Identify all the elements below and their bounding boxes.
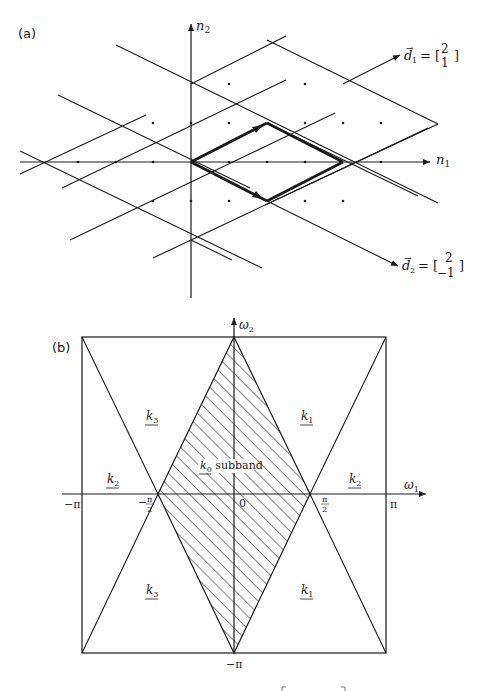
omega1-axis-label: ω1 bbox=[404, 478, 419, 494]
omega2-axis-label: ω2 bbox=[239, 318, 254, 334]
svg-text:π: π bbox=[322, 495, 327, 504]
region-label-k0-subband: k0 subband bbox=[198, 459, 263, 474]
region-label-k2-right: k2 bbox=[348, 472, 361, 488]
svg-text:k1: k1 bbox=[301, 409, 313, 425]
d1-label: d → 1 = [ 2 1 ] bbox=[404, 42, 459, 70]
svg-text:k3: k3 bbox=[146, 409, 158, 425]
bottom-bracket-fragment bbox=[282, 687, 345, 691]
region-label-k1-bottom: k1 bbox=[300, 583, 313, 599]
lattice-lines-positive bbox=[20, 36, 438, 258]
region-label-k3-bottom: k3 bbox=[145, 583, 158, 599]
svg-text:k1: k1 bbox=[301, 583, 313, 599]
svg-text:2: 2 bbox=[322, 505, 327, 514]
d2-label: d → 2 = [ 2 −1 ] bbox=[402, 251, 464, 280]
lattice-lines-negative bbox=[20, 36, 438, 268]
svg-text:2: 2 bbox=[410, 266, 415, 275]
svg-text:]: ] bbox=[454, 48, 459, 63]
svg-text:k3: k3 bbox=[146, 583, 158, 599]
svg-text:−1: −1 bbox=[437, 266, 455, 280]
svg-text:2: 2 bbox=[147, 505, 152, 514]
svg-text:−: − bbox=[138, 496, 147, 509]
tick-pi: π bbox=[390, 498, 397, 511]
svg-text:1: 1 bbox=[441, 56, 449, 70]
svg-text:→: → bbox=[404, 253, 412, 263]
panel-b: (b) ω2 ω1 −π π − π 2 π 2 bbox=[52, 318, 426, 691]
tick-zero: 0 bbox=[239, 497, 246, 510]
panel-a-label: (a) bbox=[18, 26, 36, 41]
tick-neg-half-pi: − π 2 bbox=[138, 495, 154, 514]
svg-text:2: 2 bbox=[441, 42, 449, 56]
svg-text:→: → bbox=[406, 43, 414, 53]
svg-text:= [: = [ bbox=[418, 258, 438, 273]
svg-text:k2: k2 bbox=[349, 472, 361, 488]
panel-a: (a) bbox=[18, 18, 464, 298]
region-label-k3-top: k3 bbox=[145, 409, 158, 425]
region-label-k1-top: k1 bbox=[300, 409, 313, 425]
svg-text:2: 2 bbox=[445, 251, 453, 265]
svg-text:k2: k2 bbox=[107, 472, 119, 488]
svg-text:]: ] bbox=[459, 258, 464, 273]
tick-bottom-neg-pi: −π bbox=[226, 658, 242, 671]
tick-neg-pi: −π bbox=[64, 498, 80, 511]
d1-vector bbox=[343, 55, 400, 84]
svg-text:π: π bbox=[147, 495, 152, 504]
figure: (a) bbox=[0, 0, 481, 691]
svg-text:= [: = [ bbox=[420, 48, 440, 63]
n2-axis-label: n2 bbox=[196, 18, 210, 35]
n1-axis-label: n1 bbox=[436, 152, 450, 169]
region-label-k2-left: k2 bbox=[106, 472, 119, 488]
panel-b-label: (b) bbox=[52, 340, 70, 355]
d2-vector bbox=[267, 201, 398, 266]
svg-text:1: 1 bbox=[412, 56, 417, 65]
tick-half-pi: π 2 bbox=[321, 495, 329, 514]
